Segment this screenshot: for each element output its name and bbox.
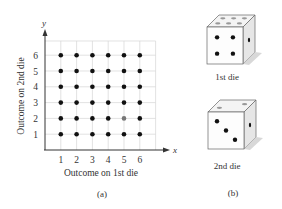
data-point [59,69,64,74]
data-point [122,85,127,90]
y-tick-label: 2 [33,114,38,124]
data-point [122,132,127,137]
data-point [90,85,95,90]
data-point [90,100,95,105]
data-point [59,100,64,105]
data-point [74,53,79,58]
data-point [90,116,95,121]
side-pips [248,38,250,43]
data-point [106,132,111,137]
data-point [59,85,64,90]
pip [215,51,219,55]
data-point [74,132,79,137]
y-tick-label: 1 [33,130,38,140]
x-tick-label: 4 [106,155,111,165]
pip [217,107,222,109]
pip [242,17,247,19]
data-point [122,100,127,105]
y-tick-labels: 123456 [33,51,38,140]
second-die-label: 2nd die [214,161,241,171]
pip [215,119,219,123]
pip [233,138,237,142]
data-point-highlighted [122,116,127,121]
pip [220,17,225,19]
data-point [106,53,111,58]
first-die [207,15,262,65]
data-point [74,100,79,105]
x-tick-label: 1 [58,155,63,165]
data-point [59,132,64,137]
x-tick-label: 2 [74,155,79,165]
pip [215,22,220,24]
panel-label-a: (a) [97,189,107,199]
x-tick-label: 6 [137,155,142,165]
y-axis-letter: y [41,18,46,28]
data-point [90,53,95,58]
pip [231,17,236,19]
data-point [74,69,79,74]
x-axis-arrow [163,148,170,153]
data-point [90,132,95,137]
pip [248,38,250,43]
side-pips [249,123,251,128]
x-axis-letter: x [172,145,177,155]
panel-label-b: (b) [228,188,239,198]
pip [215,35,219,39]
pip [242,103,247,105]
data-point [138,69,143,74]
data-point [74,85,79,90]
data-point [106,69,111,74]
x-axis-label: Outcome on 1st die [64,168,138,178]
y-tick-label: 5 [33,67,38,77]
data-point [106,85,111,90]
x-tick-label: 3 [90,155,95,165]
pip [249,123,251,128]
data-point [122,53,127,58]
data-point [138,100,143,105]
data-point [59,116,64,121]
y-axis-label: Outcome on 2nd die [16,57,26,134]
second-die [208,100,263,150]
data-point [138,116,143,121]
data-point [59,53,64,58]
pip [237,22,242,24]
data-point [138,132,143,137]
x-tick-labels: 123456 [58,155,142,165]
data-point [106,116,111,121]
x-tick-label: 5 [122,155,127,165]
data-point [138,85,143,90]
y-tick-label: 6 [33,51,38,61]
die-front-face [207,27,243,64]
data-point [122,69,127,74]
data-point [106,100,111,105]
data-point [90,69,95,74]
data-point [74,116,79,121]
pip [231,51,235,55]
dice-outcome-chart: y x 123456 123456 Outcome on 1st die Out… [0,0,282,209]
data-points [59,53,143,137]
pip [224,128,228,132]
first-die-label: 1st die [215,72,239,82]
y-tick-label: 4 [33,82,38,92]
pip [226,22,231,24]
y-axis-arrow [43,29,48,36]
y-tick-label: 3 [33,98,38,108]
data-point [138,53,143,58]
pip [231,35,235,39]
